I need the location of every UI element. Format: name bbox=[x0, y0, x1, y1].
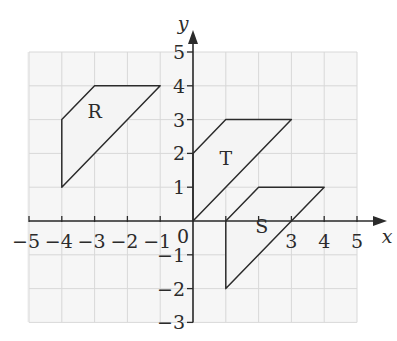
shape-label-s: S bbox=[255, 215, 268, 237]
y-axis-label: y bbox=[177, 12, 189, 34]
y-tick-label: 2 bbox=[173, 142, 185, 164]
x-tick-label: −3 bbox=[78, 230, 106, 252]
y-tick-label: −2 bbox=[157, 278, 185, 300]
y-tick-label: −1 bbox=[157, 244, 185, 266]
shape-label-t: T bbox=[219, 147, 232, 169]
x-tick-label: 5 bbox=[351, 230, 363, 252]
y-axis-arrow-icon bbox=[188, 30, 198, 44]
x-tick-label: −4 bbox=[45, 230, 73, 252]
coordinate-diagram: RTS −5−4−3−2−134554321−1−2−30xy bbox=[0, 0, 397, 341]
x-tick-label: −2 bbox=[110, 230, 138, 252]
y-tick-label: 5 bbox=[173, 41, 185, 63]
y-tick-label: −3 bbox=[157, 311, 185, 333]
x-axis-label: x bbox=[382, 225, 393, 247]
x-tick-label: 3 bbox=[285, 230, 297, 252]
y-tick-label: 4 bbox=[173, 75, 185, 97]
shape-label-r: R bbox=[87, 100, 102, 122]
x-tick-label: 4 bbox=[318, 230, 330, 252]
x-tick-label: −5 bbox=[12, 230, 40, 252]
y-tick-label: 3 bbox=[173, 109, 185, 131]
origin-label: 0 bbox=[177, 225, 189, 247]
y-tick-label: 1 bbox=[173, 176, 185, 198]
